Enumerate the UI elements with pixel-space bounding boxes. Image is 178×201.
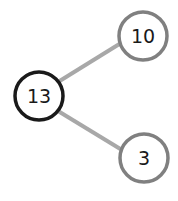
part-2-value: 3	[138, 147, 150, 169]
part-node-1: 10	[119, 12, 167, 60]
part-node-2: 3	[120, 134, 168, 182]
connector-whole-to-part-2	[58, 111, 122, 150]
part-1-value: 10	[131, 25, 155, 47]
whole-node: 13	[15, 72, 63, 120]
connector-whole-to-part-1	[58, 43, 121, 82]
number-bond-diagram: 13 10 3	[0, 0, 178, 201]
whole-value: 13	[27, 85, 51, 107]
